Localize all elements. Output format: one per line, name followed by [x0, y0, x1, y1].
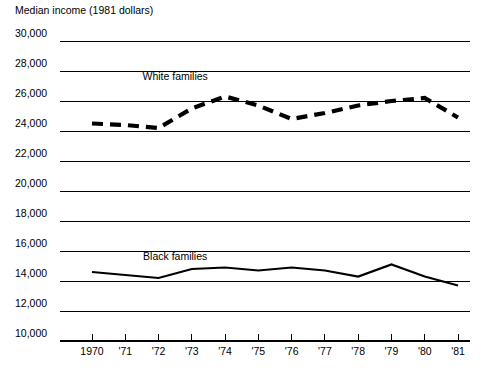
- ytick-label-28000: 28,000: [15, 57, 47, 69]
- ytick-label-30000: 30,000: [15, 27, 47, 39]
- xtick-label-80: '80: [418, 345, 432, 357]
- ytick-label-10000: 10,000: [15, 327, 47, 339]
- ytick-label-22000: 22,000: [15, 147, 47, 159]
- series-label-black-families: Black families: [143, 250, 207, 262]
- xtick-label-79: '79: [385, 345, 399, 357]
- ytick-label-14000: 14,000: [15, 267, 47, 279]
- ytick-label-24000: 24,000: [15, 117, 47, 129]
- chart-background: [0, 0, 482, 378]
- xtick-label-73: '73: [185, 345, 199, 357]
- xtick-label-72: '72: [152, 345, 166, 357]
- ytick-label-12000: 12,000: [15, 297, 47, 309]
- xtick-label-76: '76: [285, 345, 299, 357]
- xtick-label-75: '75: [252, 345, 266, 357]
- ytick-label-18000: 18,000: [15, 207, 47, 219]
- ytick-label-16000: 16,000: [15, 237, 47, 249]
- xtick-label-78: '78: [351, 345, 365, 357]
- chart-title: Median income (1981 dollars): [15, 4, 153, 16]
- xtick-label-1970: 1970: [80, 345, 104, 357]
- xtick-label-71: '71: [118, 345, 132, 357]
- ytick-label-20000: 20,000: [15, 177, 47, 189]
- series-label-white-families: White families: [143, 70, 208, 82]
- xtick-label-74: '74: [218, 345, 232, 357]
- median-income-line-chart: Median income (1981 dollars) 30,00028,00…: [0, 0, 482, 378]
- ytick-label-26000: 26,000: [15, 87, 47, 99]
- xtick-label-81: '81: [451, 345, 465, 357]
- xtick-label-77: '77: [318, 345, 332, 357]
